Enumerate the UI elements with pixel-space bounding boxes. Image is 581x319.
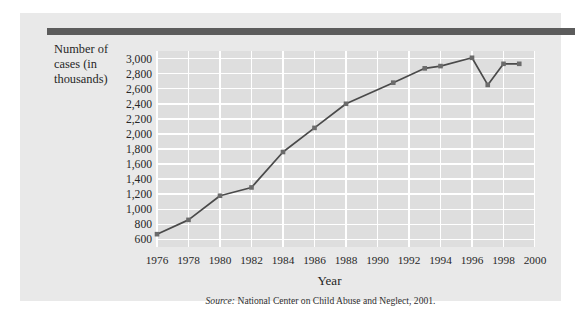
y-axis-tick-label: 800 [106, 218, 152, 231]
source-label: Source: [206, 295, 235, 306]
plot-area-wrapper [157, 51, 535, 247]
data-point-marker [281, 150, 286, 155]
data-point-marker [391, 80, 396, 85]
y-axis-tick-label: 2,200 [106, 112, 152, 125]
x-axis-title-text: Year [318, 273, 342, 288]
source-note-inner: Source: National Center on Child Abuse a… [206, 295, 436, 306]
y-axis-tick-label: 1,400 [106, 173, 152, 186]
y-axis-tick-label: 2,000 [106, 127, 152, 140]
x-axis-tick-label: 1996 [461, 254, 484, 266]
data-point-marker [218, 193, 223, 198]
figure-panel: Number of cases (in thousands) 6008001,0… [20, 13, 561, 301]
y-axis-tick-label: 2,800 [106, 67, 152, 80]
y-axis-tick-label: 1,600 [106, 158, 152, 171]
x-axis-tick-labels: 1976197819801982198419861988199019921994… [157, 254, 535, 270]
y-axis-tick-label: 2,400 [106, 97, 152, 110]
data-point-marker [312, 126, 317, 131]
data-point-marker [501, 62, 506, 67]
x-axis-tick-label: 1982 [240, 254, 263, 266]
x-axis-tick-label: 1980 [209, 254, 232, 266]
x-axis-tick-label: 1988 [335, 254, 358, 266]
data-point-marker [186, 218, 191, 223]
data-point-marker [470, 55, 475, 60]
data-point-marker [422, 66, 427, 71]
x-axis-tick-label: 1990 [366, 254, 389, 266]
data-point-marker [485, 83, 490, 88]
data-point-marker [517, 62, 522, 67]
y-axis-tick-label: 3,000 [106, 52, 152, 65]
x-axis-tick-label: 1998 [492, 254, 515, 266]
data-point-marker [155, 232, 160, 237]
x-axis-tick-label: 1976 [146, 254, 169, 266]
x-axis-tick-label: 1992 [398, 254, 421, 266]
x-axis-tick-label: 1984 [272, 254, 295, 266]
series-line [157, 58, 519, 234]
source-note: Source: National Center on Child Abuse a… [20, 295, 581, 306]
x-axis-tick-label: 2000 [524, 254, 547, 266]
y-axis-tick-label: 2,600 [106, 82, 152, 95]
data-point-marker [249, 185, 254, 190]
y-axis-tick-labels: 6008001,0001,2001,4001,6001,8002,0002,20… [102, 51, 152, 247]
x-axis-tick-label: 1994 [429, 254, 452, 266]
y-axis-tick-label: 1,000 [106, 203, 152, 216]
top-rule-divider [47, 28, 575, 35]
x-axis-tick-label: 1986 [303, 254, 326, 266]
data-point-marker [438, 64, 443, 69]
source-text: National Center on Child Abuse and Negle… [237, 295, 435, 306]
y-axis-tick-label: 1,200 [106, 188, 152, 201]
y-axis-tick-label: 1,800 [106, 143, 152, 156]
line-chart-series [157, 51, 535, 247]
y-axis-tick-label: 600 [106, 233, 152, 246]
x-axis-title: Year [20, 273, 581, 289]
x-axis-tick-label: 1978 [177, 254, 200, 266]
data-point-marker [344, 101, 349, 106]
